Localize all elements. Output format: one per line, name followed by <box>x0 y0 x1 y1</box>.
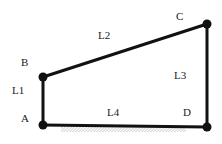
joint-C <box>203 20 212 29</box>
label-A: A <box>21 112 29 124</box>
label-L4: L4 <box>107 106 120 118</box>
four-bar-linkage-diagram: A B C D L1 L2 L3 L4 <box>0 0 222 144</box>
joint-D <box>203 123 212 132</box>
label-D: D <box>183 106 191 118</box>
link-L4 <box>43 125 207 127</box>
joint-B <box>39 73 48 82</box>
label-B: B <box>21 56 28 68</box>
label-L2: L2 <box>98 29 110 41</box>
label-L1: L1 <box>12 84 24 96</box>
joint-A <box>39 121 48 130</box>
label-L3: L3 <box>174 69 187 81</box>
label-C: C <box>176 10 183 22</box>
